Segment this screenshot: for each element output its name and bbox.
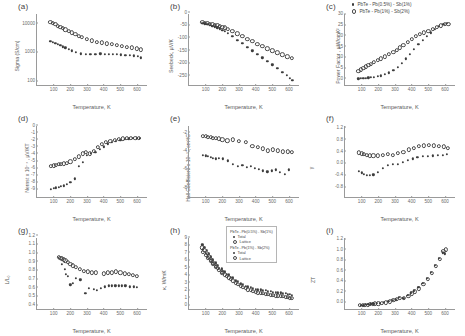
data-point <box>281 149 285 153</box>
y-axis-label: γ <box>308 167 314 170</box>
data-point <box>284 173 286 175</box>
data-point <box>381 167 383 169</box>
data-point <box>139 48 143 52</box>
data-point <box>434 28 436 30</box>
x-axis-tick: 300 <box>83 87 91 92</box>
data-point <box>115 43 119 47</box>
y-axis-tick: -3 <box>31 143 35 148</box>
y-axis-tick: -0.8 <box>335 184 343 189</box>
data-point <box>409 53 411 55</box>
y-axis-tick: 8 <box>184 242 187 247</box>
y-axis-tick: 3 <box>184 279 187 284</box>
y-axis-tick: 0.6 <box>337 267 343 272</box>
data-point <box>246 46 248 48</box>
data-point <box>241 164 243 166</box>
y-axis-tick: -9 <box>31 186 35 191</box>
x-axis-tick: 300 <box>235 87 243 92</box>
data-point <box>288 169 290 171</box>
legend-label: Lattice <box>240 239 251 244</box>
chart-panel-f: (f)γTemperature, K1.20.80.40.0-0.4-0.810… <box>308 112 463 224</box>
y-axis-tick: 0.7 <box>29 276 35 281</box>
panel-label: (a) <box>18 2 28 11</box>
x-axis-tick: 400 <box>100 311 108 316</box>
y-axis-tick: 20 <box>338 32 343 37</box>
data-point <box>72 157 76 161</box>
y-axis-tick: 0 <box>340 75 343 80</box>
x-axis-tick: 400 <box>408 311 416 316</box>
data-point <box>67 275 69 277</box>
data-point <box>285 74 287 76</box>
data-point <box>289 56 293 60</box>
data-point <box>392 69 394 71</box>
x-axis-tick: 200 <box>66 311 74 316</box>
data-point <box>370 76 372 78</box>
plot-area: 1.20.80.40.0-0.4-0.8100200300400500600 <box>344 126 455 198</box>
y-axis-tick: -0.4 <box>335 172 343 177</box>
data-point <box>124 54 126 56</box>
data-point <box>112 53 114 55</box>
legend-marker-open <box>233 240 237 244</box>
chart-panel-i: (i)ZTTemperature, K1.21.00.80.60.40.20.0… <box>308 224 463 336</box>
legend-group-header: PbTe - Pb(0.5%) - Sb(1%) <box>230 229 273 234</box>
data-point <box>227 159 229 161</box>
data-point <box>260 44 264 48</box>
data-point <box>225 138 229 142</box>
data-point <box>275 169 277 171</box>
x-axis-tick: 500 <box>268 87 276 92</box>
x-axis-tick: 200 <box>374 311 382 316</box>
chart-panel-e: (e)Hall Coefficient x 10⁻² , cm³/CTemper… <box>152 112 307 224</box>
y-axis-label: Nernst x 10⁻⁷ , µV/KT <box>24 143 30 192</box>
data-point <box>128 54 130 56</box>
legend-marker-filled <box>233 252 235 254</box>
data-point <box>396 66 398 68</box>
data-point <box>255 42 259 46</box>
x-axis-tick: 600 <box>441 311 449 316</box>
data-point <box>396 163 398 165</box>
data-point <box>266 170 268 172</box>
x-axis-label: Temperature, K <box>188 328 299 334</box>
y-axis-tick: 0.9 <box>29 258 35 263</box>
y-axis-tick: 9 <box>184 234 187 239</box>
panel-label: (i) <box>326 226 334 235</box>
data-point <box>121 284 123 286</box>
y-axis-tick: 0 <box>184 9 187 14</box>
data-point <box>111 284 113 286</box>
x-axis-tick: 100 <box>202 87 210 92</box>
data-point <box>421 155 423 157</box>
data-point <box>231 138 235 142</box>
data-point <box>85 53 87 55</box>
data-point <box>441 154 443 156</box>
data-point <box>73 177 75 179</box>
x-axis-tick: 300 <box>83 311 91 316</box>
plot-area: 0-50-100-150-200-250100200300400500600 <box>188 14 299 86</box>
data-point <box>446 153 448 155</box>
data-point <box>89 53 91 55</box>
data-point <box>270 48 274 52</box>
y-axis-tick: 15 <box>338 43 343 48</box>
data-point <box>417 144 421 148</box>
data-point <box>422 143 426 147</box>
y-axis-tick: 0.8 <box>337 136 343 141</box>
chart-panel-b: (b)Seebeck, µV/KTemperature, K0-50-100-1… <box>152 0 307 112</box>
data-point <box>68 48 70 50</box>
x-axis-tick: 300 <box>391 311 399 316</box>
y-axis-tick: 0.4 <box>337 278 343 283</box>
data-point <box>64 47 66 49</box>
x-axis-tick: 400 <box>100 199 108 204</box>
data-point <box>232 163 234 165</box>
data-point <box>411 157 413 159</box>
data-point <box>124 284 126 286</box>
y-axis-tick: 1.0 <box>29 250 35 255</box>
data-point <box>437 144 441 148</box>
data-point <box>241 42 243 44</box>
data-point <box>369 174 371 176</box>
x-axis-tick: 300 <box>83 199 91 204</box>
x-axis-tick: 200 <box>218 311 226 316</box>
data-point <box>412 146 416 150</box>
x-axis-tick: 100 <box>358 87 366 92</box>
data-point <box>110 42 114 46</box>
data-point <box>237 139 241 143</box>
x-axis-tick: 300 <box>391 87 399 92</box>
data-point <box>281 71 283 73</box>
data-point <box>94 270 98 274</box>
